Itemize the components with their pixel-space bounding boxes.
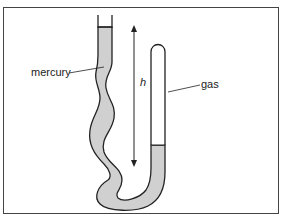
mercury-label: mercury bbox=[31, 66, 71, 78]
diagram-frame bbox=[4, 8, 279, 214]
gas-label: gas bbox=[201, 78, 219, 90]
gas-tube bbox=[151, 45, 165, 146]
height-label: h bbox=[140, 76, 146, 88]
manometer-diagram: mercury gas h bbox=[0, 0, 288, 222]
